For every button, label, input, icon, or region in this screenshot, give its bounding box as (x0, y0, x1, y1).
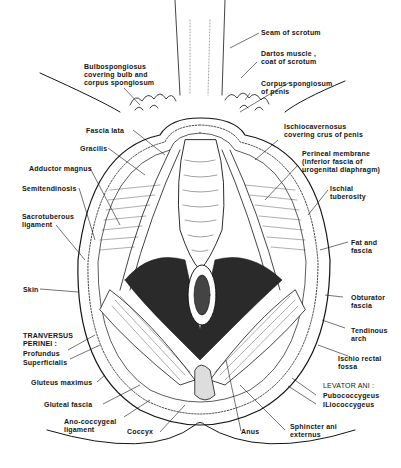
label-superficialis: Superficialis (23, 359, 67, 367)
label-corpus-spongiosum: Corpus spongiosum of penis (261, 80, 332, 96)
label-fascia-lata: Fascia lata (86, 127, 124, 135)
label-ischiocavernosus: Ischiocavernosus covering crus of penis (284, 123, 363, 139)
label-skin: Skin (23, 286, 39, 294)
label-ischio-rectal-fossa: Ischio rectal fossa (338, 355, 381, 371)
label-fat-and-fascia: Fat and fascia (351, 239, 377, 255)
label-dartos-muscle: Dartos muscle , coat of scrotum (261, 50, 317, 66)
label-bulbospongiosus: Bulbospongiosus covering bulb and corpus… (84, 63, 154, 87)
label-ischial-tuberosity: Ischial tuberosity (330, 185, 366, 201)
label-sacrotuberous-ligament: Sacrotuberous ligament (22, 213, 74, 229)
coccyx (195, 365, 215, 400)
label-gluteus-maximus: Gluteus maximus (31, 379, 92, 387)
label-perineal-membrane: Perineal membrane (inferior fascia of ur… (302, 150, 380, 174)
label-adductor-magnus: Adductor magnus (29, 165, 92, 173)
label-pubococcygeus: Pubococcygeus (323, 392, 379, 400)
label-gracilis: Gracilis (80, 145, 107, 153)
label-semitendinosis: Semitendinosis (22, 185, 77, 193)
muscle-hatching (100, 185, 305, 250)
label-sphincter-ani-externus: Sphincter ani externus (290, 423, 337, 439)
label-ano-coccygeal-ligament: Ano-coccygeal ligament (64, 418, 116, 434)
label-gluteal-fascia: Gluteal fascia (44, 401, 92, 409)
label-profundus: Profundus (23, 350, 60, 358)
penis-shaft (175, 0, 225, 95)
label-levator-ani: LEVATOR ANI : (323, 382, 374, 390)
label-seam-of-scrotum: Seam of scrotum (261, 29, 321, 37)
label-obturator-fascia: Obturator fascia (351, 294, 385, 310)
label-iliococcygeus: ILiococcygeus (323, 401, 374, 409)
label-tendinous-arch: Tendinous arch (351, 327, 388, 343)
label-coccyx: Coccyx (127, 428, 153, 436)
label-anus: Anus (241, 428, 259, 436)
label-tranversus-perinei: TRANVERSUS PERINEI : (23, 332, 73, 348)
